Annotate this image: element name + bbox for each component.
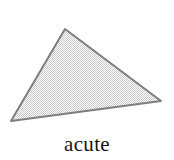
acute-triangle-shape [11, 29, 161, 121]
figure-container: acute [0, 0, 174, 160]
figure-caption: acute [0, 132, 174, 156]
